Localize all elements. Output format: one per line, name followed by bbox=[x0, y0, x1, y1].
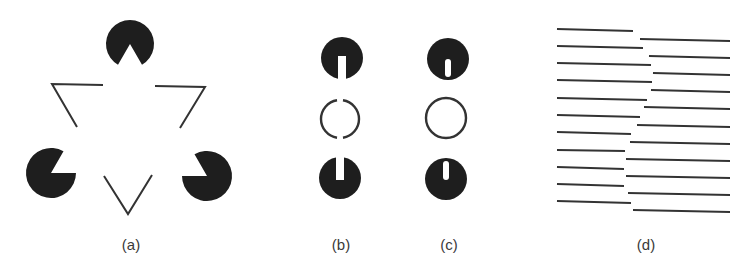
broken-ring-left-arc bbox=[321, 100, 337, 138]
grating-line-left bbox=[557, 46, 643, 48]
grating-line-left bbox=[557, 63, 651, 65]
pacman-inducer bbox=[26, 148, 76, 198]
illusory-contours-figure bbox=[0, 0, 749, 273]
grating-line-left bbox=[557, 167, 624, 169]
disk-slot bbox=[336, 155, 344, 180]
grating-line-right bbox=[633, 210, 730, 212]
grating-line-left bbox=[557, 115, 640, 117]
broken-ring-right-arc bbox=[343, 100, 359, 138]
grating-line-right bbox=[644, 107, 730, 109]
grating-line-left bbox=[557, 184, 624, 186]
grating-line-right bbox=[651, 90, 730, 92]
grating-line-left bbox=[557, 150, 625, 151]
grating-line-left bbox=[557, 29, 633, 31]
pacman-inducer bbox=[106, 20, 154, 65]
disk-slot bbox=[338, 56, 346, 81]
panel-d-offset-gratings bbox=[557, 29, 730, 212]
grating-line-right bbox=[626, 176, 730, 178]
grating-line-left bbox=[557, 80, 652, 82]
triangle-outline-corner bbox=[104, 175, 152, 214]
grating-line-right bbox=[630, 142, 730, 144]
grating-line-left bbox=[557, 132, 631, 134]
grating-line-left bbox=[557, 201, 631, 203]
grating-line-right bbox=[640, 39, 730, 41]
panel-label-d: (d) bbox=[637, 235, 655, 255]
disk-slit bbox=[443, 161, 449, 180]
grating-line-right bbox=[628, 193, 730, 195]
triangle-outline-corner bbox=[155, 86, 205, 128]
panel-b-slotted-disks bbox=[319, 37, 363, 199]
grating-line-right bbox=[649, 56, 730, 58]
pacman-inducer bbox=[182, 151, 232, 201]
grating-line-left bbox=[557, 98, 647, 100]
panel-a-kanizsa-triangle bbox=[26, 20, 232, 214]
panel-c-slit-disks bbox=[425, 38, 469, 200]
grating-line-right bbox=[653, 73, 730, 75]
panel-label-c: (c) bbox=[440, 235, 458, 255]
grating-line-right bbox=[637, 125, 730, 127]
triangle-outline-corner bbox=[52, 84, 103, 127]
panel-label-a: (a) bbox=[122, 235, 140, 255]
panel-label-b: (b) bbox=[332, 235, 350, 255]
full-ring bbox=[426, 98, 466, 138]
grating-line-right bbox=[626, 159, 730, 161]
disk-slit bbox=[445, 59, 451, 77]
